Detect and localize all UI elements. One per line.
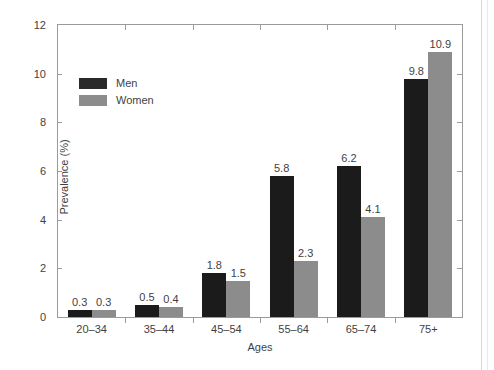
bar-men	[68, 310, 92, 317]
bar-men	[404, 79, 428, 317]
page-edge-artifact	[481, 0, 482, 370]
x-axis-tick-mark	[327, 318, 328, 323]
bar-men	[135, 305, 159, 317]
legend-item-women: Women	[79, 93, 189, 108]
y-axis-tick-label: 0	[12, 311, 46, 323]
chart-figure: 02468101220–3435–4445–5455–6465–7475+ 0.…	[0, 0, 494, 370]
legend-item-men: Men	[79, 76, 189, 91]
y-axis-tick-label: 4	[12, 214, 46, 226]
x-axis-tick-mark	[125, 318, 126, 323]
bar-value-label: 0.4	[149, 293, 193, 305]
bar-women	[159, 307, 183, 317]
y-axis-tick-label: 6	[12, 165, 46, 177]
page-edge-artifact-secondary	[487, 0, 488, 370]
y-axis-tick-label: 2	[12, 262, 46, 274]
bar-value-label: 1.5	[216, 267, 260, 279]
bar-women	[294, 261, 318, 317]
x-axis-tick-mark	[395, 318, 396, 323]
legend-swatch-men-icon	[79, 78, 107, 89]
x-axis-tick-label: 75+	[388, 323, 468, 335]
legend-label-men: Men	[116, 78, 137, 89]
y-axis-title: Prevalence (%)	[58, 107, 70, 247]
bar-value-label: 4.1	[351, 203, 395, 215]
bar-value-label: 10.9	[418, 38, 462, 50]
bar-women	[361, 217, 385, 317]
bar-women	[92, 310, 116, 317]
bar-value-label: 6.2	[327, 152, 371, 164]
y-axis-tick-label: 10	[12, 68, 46, 80]
bar-value-label: 0.3	[82, 296, 126, 308]
bar-women	[428, 52, 452, 317]
x-axis-title: Ages	[57, 341, 463, 353]
legend-swatch-women-icon	[79, 95, 107, 106]
y-axis-tick-label: 12	[12, 19, 46, 31]
y-axis-tick-label: 8	[12, 116, 46, 128]
bar-value-label: 2.3	[284, 247, 328, 259]
bar-men	[202, 273, 226, 317]
legend-label-women: Women	[116, 95, 154, 106]
bar-value-label: 5.8	[260, 162, 304, 174]
bar-value-label: 9.8	[394, 65, 438, 77]
bar-women	[226, 281, 250, 318]
bar-men	[337, 166, 361, 317]
x-axis-tick-mark	[193, 318, 194, 323]
x-axis-tick-mark	[260, 318, 261, 323]
chart-legend: Men Women	[79, 76, 189, 110]
